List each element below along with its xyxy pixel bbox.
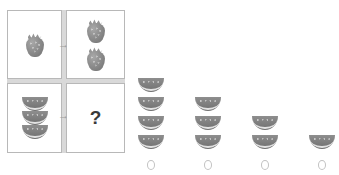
- watermelon-rind: [253, 120, 277, 129]
- watermelon-rind: [139, 120, 163, 129]
- watermelon-rind: [196, 120, 220, 129]
- watermelon-slice-icon: [195, 116, 221, 130]
- radio-button-option-d[interactable]: [318, 160, 326, 170]
- radio-button-option-b[interactable]: [204, 160, 212, 170]
- analogy-cell-top-left: [7, 10, 62, 79]
- strawberry-group-two: [67, 11, 124, 78]
- answer-option-d[interactable]: [300, 10, 339, 170]
- watermelon-slice-icon: [22, 111, 48, 125]
- answer-option-a-stack: [137, 26, 165, 152]
- strawberry-body: [26, 37, 44, 57]
- strawberry-body: [87, 51, 105, 71]
- watermelon-second-row: [10, 125, 59, 139]
- question-mark-wrapper: ?: [67, 84, 124, 152]
- answer-option-b[interactable]: [186, 10, 230, 170]
- answer-option-d-stack: [308, 26, 336, 152]
- answer-option-a[interactable]: [129, 10, 173, 170]
- watermelon-rind: [23, 101, 47, 110]
- analogy-grid: ?: [7, 10, 125, 153]
- watermelon-slice-icon: [22, 125, 48, 139]
- analogy-cell-answer-placeholder: ?: [66, 83, 125, 153]
- strawberry-group-one: [8, 11, 61, 78]
- watermelon-slice-icon: [195, 135, 221, 149]
- analogy-cell-bottom-left: [7, 83, 62, 153]
- radio-button-option-c[interactable]: [261, 160, 269, 170]
- watermelon-slice-icon: [22, 97, 48, 111]
- analogy-cell-top-right: [66, 10, 125, 79]
- watermelon-rind: [253, 139, 277, 148]
- watermelon-group-three: [8, 84, 61, 152]
- answer-option-c-stack: [251, 26, 279, 152]
- strawberry-icon: [25, 32, 45, 57]
- radio-button-option-a[interactable]: [147, 160, 155, 170]
- watermelon-slice-icon: [138, 78, 164, 92]
- watermelon-slice-icon: [309, 135, 335, 149]
- watermelon-rind: [196, 101, 220, 110]
- answer-option-c[interactable]: [243, 10, 287, 170]
- watermelon-slice-icon: [138, 135, 164, 149]
- strawberry-icon: [86, 46, 106, 71]
- watermelon-rind: [139, 139, 163, 148]
- watermelon-slice-icon: [138, 116, 164, 130]
- watermelon-slice-icon: [252, 135, 278, 149]
- watermelon-slice-icon: [195, 97, 221, 111]
- answer-option-b-stack: [194, 26, 222, 152]
- strawberry-body: [87, 23, 105, 43]
- watermelon-rind: [310, 139, 334, 148]
- answer-options: [125, 10, 339, 170]
- watermelon-rind: [196, 139, 220, 148]
- watermelon-slice-icon: [252, 116, 278, 130]
- strawberry-icon: [86, 18, 106, 43]
- watermelon-rind: [23, 129, 47, 138]
- watermelon-rind: [139, 82, 163, 91]
- watermelon-rind: [139, 101, 163, 110]
- watermelon-rind: [23, 115, 47, 124]
- watermelon-slice-icon: [138, 97, 164, 111]
- question-mark: ?: [90, 107, 102, 129]
